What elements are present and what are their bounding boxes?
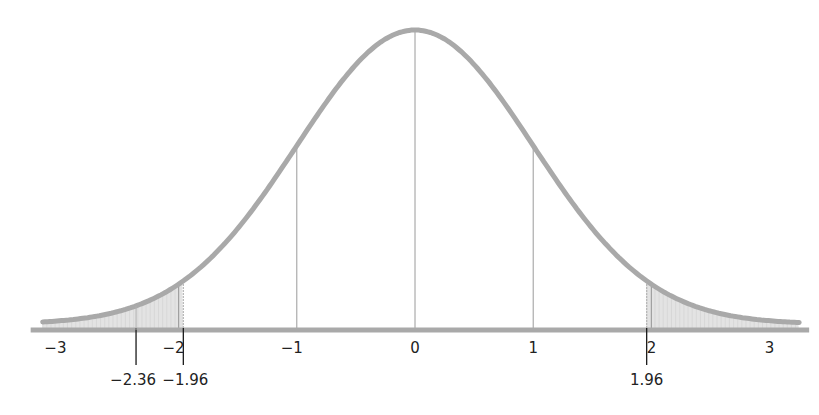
x-tick-label: −2: [163, 339, 185, 357]
marker-label: −2.36: [110, 371, 156, 389]
marker-label: 1.96: [630, 371, 663, 389]
reference-lines: [179, 30, 652, 330]
shaded-tail-regions: [43, 281, 800, 330]
x-tick-label: −3: [44, 339, 66, 357]
x-tick-label: 1: [528, 339, 538, 357]
x-tick-label: 2: [647, 339, 657, 357]
x-axis-ticks: −3−2−10123: [44, 339, 774, 357]
x-tick-label: 3: [765, 339, 775, 357]
x-tick-label: −1: [281, 339, 303, 357]
normal-distribution-chart: −3−2−10123 −2.36−1.961.96: [0, 0, 819, 415]
density-curve: [43, 30, 800, 323]
critical-value-markers: −2.36−1.961.96: [110, 306, 663, 389]
marker-label: −1.96: [162, 371, 208, 389]
x-tick-label: 0: [410, 339, 420, 357]
